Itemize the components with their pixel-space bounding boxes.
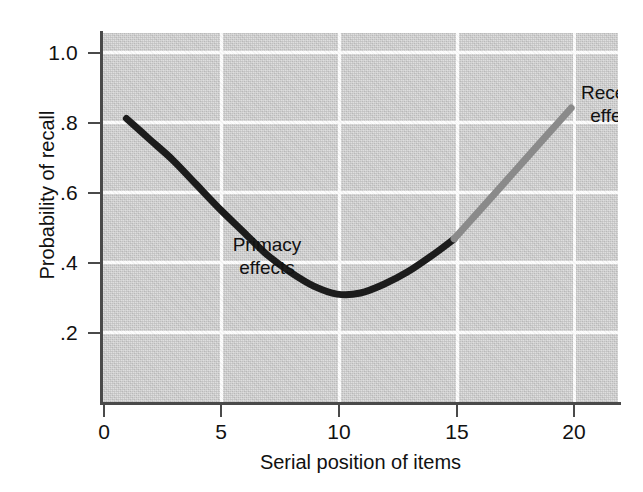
y-ticklabel-0.2: .2	[26, 322, 78, 343]
y-tick-0.2	[88, 332, 101, 334]
y-tick-0.4	[88, 262, 101, 264]
x-tick-20	[573, 404, 575, 417]
x-ticklabel-15: 15	[427, 421, 487, 442]
x-tick-5	[220, 404, 222, 417]
curve-segment-recency	[454, 108, 571, 239]
plot-area: Primacy effects Recency effects	[103, 33, 618, 403]
y-axis-line	[100, 31, 103, 405]
serial-position-curve	[103, 33, 618, 403]
y-tick-1.0	[88, 52, 101, 54]
x-ticklabel-10: 10	[309, 421, 369, 442]
x-ticklabel-5: 5	[191, 421, 251, 442]
x-tick-0	[103, 404, 105, 417]
x-axis-line	[100, 402, 621, 405]
y-tick-0.8	[88, 122, 101, 124]
annotation-primacy-effects: Primacy effects	[213, 233, 321, 279]
y-ticklabel-1.0: 1.0	[26, 42, 78, 63]
y-axis-title: Probability of recall	[37, 65, 57, 325]
x-tick-10	[338, 404, 340, 417]
serial-position-curve-figure: Primacy effects Recency effects 1.0 .8 .…	[0, 0, 643, 492]
x-ticklabel-0: 0	[74, 421, 134, 442]
x-ticklabel-20: 20	[544, 421, 604, 442]
x-axis-title: Serial position of items	[103, 452, 618, 472]
x-tick-15	[456, 404, 458, 417]
y-tick-0.6	[88, 192, 101, 194]
annotation-recency-effects: Recency effects	[558, 81, 618, 127]
